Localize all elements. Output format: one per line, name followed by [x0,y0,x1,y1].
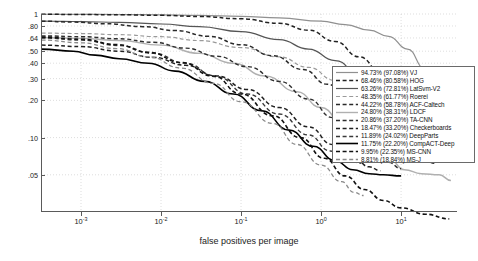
legend-label: 11.89% (24.02%) DeepParts [361,132,438,140]
legend-label: 11.75% (22.20%) CompACT-Deep [361,140,454,148]
legend-label: 18.47% (33.20%) Checkerboards [361,124,451,132]
x-axis-label: false positives per image [199,236,298,246]
legend-row[interactable]: 18.47% (33.20%) Checkerboards [336,124,471,132]
roc-chart-figure: 1.80.64.50.40.30.20.10.05 miss rate 10-3… [0,0,478,261]
y-tick-mark [41,138,45,139]
y-tick-mark [41,175,45,176]
y-axis-label: miss rate [0,88,1,120]
legend-line-swatch [336,93,358,100]
x-tick-label: 101 [395,216,406,226]
legend-line-swatch [336,140,358,147]
legend-row[interactable]: 94.73% (97.08%) VJ [336,69,471,77]
legend-line-swatch [336,125,358,132]
legend-line-swatch [336,101,358,108]
legend-label: 20.86% (37.20%) TA-CNN [361,116,432,124]
y-tick-label: .80 [28,21,38,30]
legend-row[interactable]: 48.35% (61.77%) Roerei [336,93,471,101]
legend-label: 24.80% (38.31%) LDCF [361,108,426,116]
y-axis-tick-labels: 1.80.64.50.40.30.20.10.05 [14,14,38,212]
legend-line-swatch [336,109,358,116]
legend-label: 48.35% (61.77%) Roerei [361,93,428,101]
x-tick-label: 10-2 [155,216,168,226]
y-tick-label: .50 [28,47,38,56]
legend-row[interactable]: 8.81% (18.84%) MS-J [336,156,471,164]
legend-row[interactable]: 44.22% (58.78%) ACF-Caltech [336,101,471,109]
legend-row[interactable]: 68.46% (80.58%) HOG [336,77,471,85]
legend-label: 94.73% (97.08%) VJ [361,69,417,77]
legend-row[interactable]: 9.95% (22.35%) MS-CNN [336,148,471,156]
y-tick-label: .20 [28,96,38,105]
y-tick-mark [41,26,45,27]
y-tick-mark [41,51,45,52]
x-tick-mark [321,212,322,216]
y-tick-mark [41,79,45,80]
y-tick-label: .10 [28,133,38,142]
legend-row[interactable]: 63.26% (72.81%) LatSvm-V2 [336,85,471,93]
y-tick-mark [41,14,45,15]
legend-label: 68.46% (80.58%) HOG [361,77,424,85]
legend-line-swatch [336,148,358,155]
x-tick-label: 10-1 [235,216,248,226]
legend-row[interactable]: 11.89% (24.02%) DeepParts [336,132,471,140]
legend-line-swatch [336,77,358,84]
legend-box: 94.73% (97.08%) VJ68.46% (80.58%) HOG63.… [332,66,475,163]
y-tick-label: .30 [28,74,38,83]
legend-label: 8.81% (18.84%) MS-J [361,156,421,164]
legend-label: 9.95% (22.35%) MS-CNN [361,148,431,156]
legend-label: 63.26% (72.81%) LatSvm-V2 [361,85,440,93]
legend-row[interactable]: 24.80% (38.31%) LDCF [336,108,471,116]
y-tick-mark [41,63,45,64]
x-tick-mark [161,212,162,216]
y-tick-mark [41,100,45,101]
x-tick-label: 100 [315,216,326,226]
legend-row[interactable]: 20.86% (37.20%) TA-CNN [336,116,471,124]
x-tick-label: 10-3 [74,216,87,226]
legend-line-swatch [336,133,358,140]
legend-line-swatch [336,156,358,163]
legend-label: 44.22% (58.78%) ACF-Caltech [361,101,444,109]
y-tick-label: .64 [28,33,38,42]
legend-line-swatch [336,69,358,76]
x-tick-mark [401,212,402,216]
y-tick-label: .40 [28,59,38,68]
y-tick-label: 1 [34,10,38,19]
legend-line-swatch [336,117,358,124]
x-tick-mark [241,212,242,216]
legend-row[interactable]: 11.75% (22.20%) CompACT-Deep [336,140,471,148]
y-tick-label: .05 [28,170,38,179]
x-tick-mark [81,212,82,216]
x-axis-tick-labels: 10-310-210-1100101 [41,212,457,236]
y-tick-mark [41,38,45,39]
legend-line-swatch [336,85,358,92]
